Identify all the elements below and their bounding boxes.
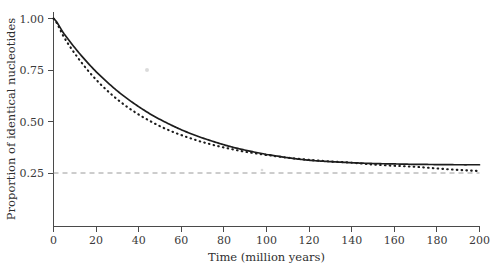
scan-speck-upper (145, 68, 149, 72)
x-tick-label-80: 80 (217, 234, 231, 247)
scan-artifacts (145, 68, 263, 171)
x-tick-label-200: 200 (469, 234, 490, 247)
series-solid-curve (54, 19, 480, 165)
x-tick-label-40: 40 (132, 234, 146, 247)
scan-speck-mid (261, 169, 264, 172)
x-tick-label-20: 20 (89, 234, 103, 247)
x-tick-label-0: 0 (50, 234, 57, 247)
y-axis-ticks (48, 19, 54, 174)
x-tick-label-60: 60 (174, 234, 188, 247)
y-tick-label-0.25: 0.25 (20, 167, 45, 180)
y-tick-label-0.75: 0.75 (20, 64, 45, 77)
x-axis-tick-labels: 0 20 40 60 80 100 120 140 160 180 200 (50, 234, 490, 247)
y-tick-label-0.50: 0.50 (20, 116, 45, 129)
y-axis-title: Proportion of identical nucleotides (4, 18, 18, 220)
nucleotide-decay-chart: 1.00 0.75 0.50 0.25 0 20 40 60 80 100 (0, 0, 498, 269)
chart-figure: 1.00 0.75 0.50 0.25 0 20 40 60 80 100 (0, 0, 498, 269)
x-tick-label-160: 160 (384, 234, 405, 247)
x-tick-label-100: 100 (256, 234, 277, 247)
x-tick-label-120: 120 (299, 234, 320, 247)
x-tick-label-140: 140 (341, 234, 362, 247)
x-axis-title: Time (million years) (208, 250, 325, 264)
x-tick-label-180: 180 (426, 234, 447, 247)
x-axis-ticks (54, 227, 480, 233)
y-axis-tick-labels: 1.00 0.75 0.50 0.25 (20, 13, 45, 181)
y-tick-label-1.00: 1.00 (20, 13, 45, 26)
series-dotted-curve (54, 19, 480, 171)
